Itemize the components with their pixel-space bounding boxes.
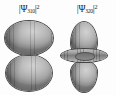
lobe-rim-shading — [5, 21, 53, 55]
psi-subscript: 320 — [85, 8, 92, 14]
psi-superscript: 2 — [94, 4, 97, 10]
psi-subscript: 310 — [27, 8, 34, 14]
label-psi-310: |Ψ310|2 — [0, 2, 58, 17]
orbital-equatorial-torus-320 — [60, 48, 108, 63]
label-psi-320: |Ψ320|2 — [58, 2, 116, 17]
lobe-rim-shading — [6, 55, 52, 91]
panel-psi-310: |Ψ310|2 — [0, 0, 58, 95]
torus-inner-hole — [75, 52, 95, 60]
psi-superscript: 2 — [36, 4, 39, 10]
lobe-rim-shading — [71, 61, 97, 92]
orbital-lobe-top-310 — [4, 20, 54, 56]
orbital-figure: |Ψ310|2 |Ψ320|2 — [0, 0, 116, 95]
orbital-lobe-bottom-310 — [5, 54, 53, 92]
